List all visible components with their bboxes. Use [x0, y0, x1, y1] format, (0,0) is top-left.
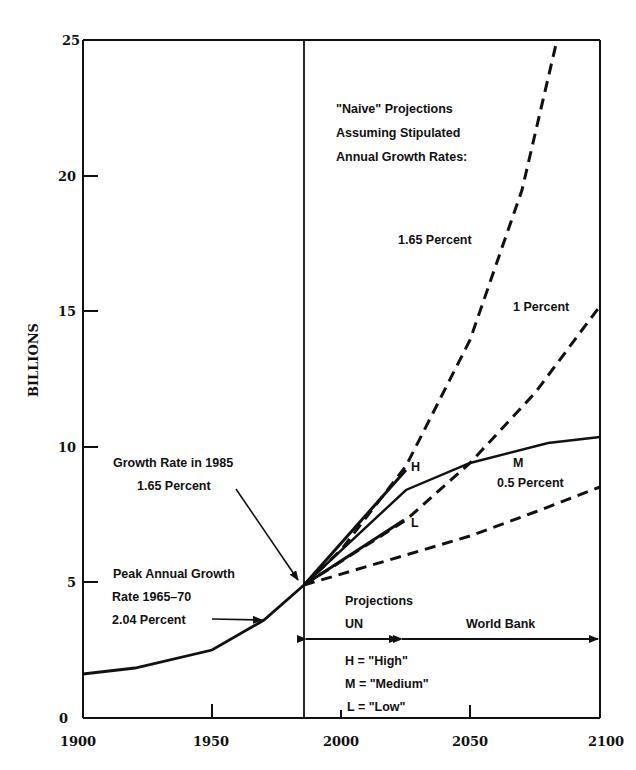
population-projection-chart: 0 5 10 15 20 25 BILLIONS 1900 1950 2000 …: [0, 0, 636, 770]
hml-legend: H = "High" M = "Medium" L = "Low": [345, 654, 429, 714]
naive-projections-note: "Naive" Projections Assuming Stipulated …: [336, 102, 467, 164]
svg-text:Growth Rate in 1985: Growth Rate in 1985: [113, 456, 233, 470]
label-l: L: [411, 516, 419, 530]
legend-low: L = "Low": [347, 700, 406, 714]
svg-text:Assuming Stipulated: Assuming Stipulated: [336, 126, 460, 140]
svg-text:UN: UN: [345, 617, 363, 631]
y-tick-0: 0: [59, 711, 68, 726]
peak-growth-note: Peak Annual Growth Rate 1965–70 2.04 Per…: [112, 567, 235, 627]
label-0-5-percent: 0.5 Percent: [497, 476, 565, 490]
y-axis-label: BILLIONS: [26, 323, 41, 397]
label-1-percent: 1 Percent: [513, 300, 570, 314]
label-h: H: [411, 460, 420, 474]
svg-text:2.04 Percent: 2.04 Percent: [112, 613, 186, 627]
svg-text:"Naive" Projections: "Naive" Projections: [336, 102, 453, 116]
series-medium: [304, 437, 600, 585]
y-tick-20: 20: [58, 169, 76, 184]
label-1-65-percent: 1.65 Percent: [398, 233, 472, 247]
y-axis: 0 5 10 15 20 25 BILLIONS: [26, 33, 98, 726]
x-tick-2100: 2100: [588, 734, 624, 749]
x-tick-2000: 2000: [323, 734, 359, 749]
x-tick-1950: 1950: [193, 734, 229, 749]
y-tick-5: 5: [67, 575, 76, 590]
arrow-growth-1985: [236, 489, 298, 580]
y-tick-10: 10: [58, 440, 76, 455]
legend-high: H = "High": [345, 654, 408, 668]
svg-text:1.65 Percent: 1.65 Percent: [137, 479, 211, 493]
x-tick-1900: 1900: [60, 734, 96, 749]
projections-bracket: Projections UN World Bank: [306, 594, 598, 639]
svg-text:Annual Growth Rates:: Annual Growth Rates:: [336, 150, 467, 164]
legend-medium: M = "Medium": [345, 677, 429, 691]
svg-text:Projections: Projections: [345, 594, 413, 608]
svg-text:Rate 1965–70: Rate 1965–70: [112, 590, 191, 604]
svg-text:World Bank: World Bank: [466, 617, 535, 631]
x-tick-2050: 2050: [452, 734, 488, 749]
y-tick-15: 15: [58, 304, 76, 319]
x-axis: 1900 1950 2000 2050 2100: [60, 704, 624, 749]
arrow-peak-growth: [212, 619, 262, 620]
svg-text:Peak Annual Growth: Peak Annual Growth: [113, 567, 235, 581]
y-tick-25: 25: [62, 33, 80, 48]
label-m: M: [513, 456, 523, 470]
growth-rate-1985-note: Growth Rate in 1985 1.65 Percent: [113, 456, 233, 493]
